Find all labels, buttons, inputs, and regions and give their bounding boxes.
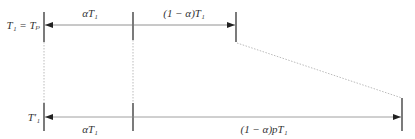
top-segment-1-label: αT₁ (82, 7, 98, 19)
bottom-segment-1-label: αT₁ (82, 123, 98, 135)
top-timeline (44, 12, 236, 42)
top-segment-2-label: (1 − α)T₁ (163, 7, 205, 20)
diagonal-dotted-connector (237, 43, 402, 98)
top-row-label: T₁ = Tₚ (7, 19, 41, 31)
bottom-row-label: T′₁ (28, 111, 41, 123)
connectors (44, 40, 402, 103)
timeline-diagram: T₁ = Tₚ αT₁ (1 − α)T₁ T′₁ αT₁ (1 − α)pT₁ (0, 0, 415, 139)
bottom-segment-2-label: (1 − α)pT₁ (241, 123, 288, 136)
